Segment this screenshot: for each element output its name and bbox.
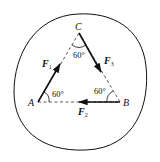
angle-arc-b	[107, 91, 113, 102]
angle-label-a: 60°	[52, 90, 64, 99]
angle-label-c: 60°	[73, 51, 85, 60]
diagram-canvas: C A B 60° 60° 60° F1 F3 F2	[0, 0, 160, 162]
angle-arc-c	[72, 45, 86, 48]
angle-arc-a	[44, 92, 49, 102]
force-label-f3: F3	[104, 56, 114, 67]
point-label-c: C	[75, 22, 82, 32]
point-label-b: B	[123, 98, 129, 108]
angle-label-b: 60°	[94, 87, 106, 96]
point-label-a: A	[28, 98, 34, 108]
force-label-f1: F1	[42, 59, 52, 70]
force-label-f2: F2	[78, 107, 88, 118]
